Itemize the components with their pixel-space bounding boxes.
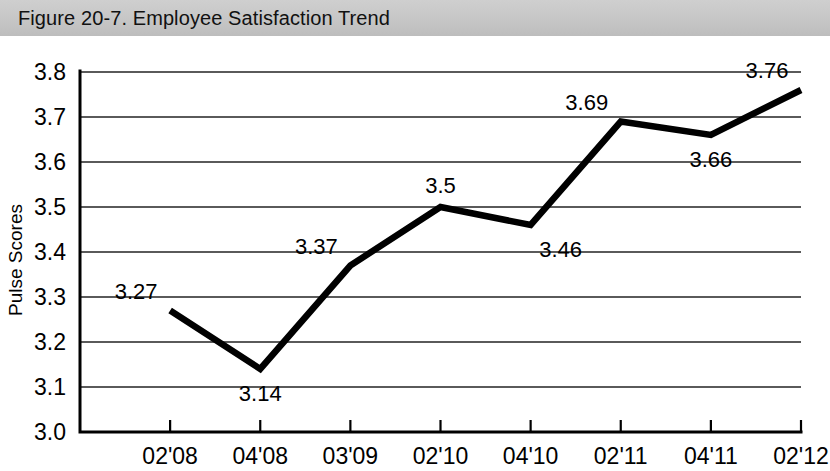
data-point-labels: 3.273.143.373.53.463.693.663.76: [115, 58, 789, 406]
data-point-label: 3.5: [425, 173, 456, 198]
x-axis-tick-label: 04'08: [232, 443, 288, 469]
y-axis-tick-label: 3.4: [34, 239, 66, 265]
x-axis-tick-label: 04'11: [684, 443, 738, 469]
data-point-label: 3.14: [239, 381, 282, 406]
x-axis-tick-label: 04'10: [503, 443, 559, 469]
y-axis-tick-label: 3.7: [34, 104, 66, 130]
y-axis-tick-label: 3.6: [34, 149, 66, 175]
x-axis-tick-label: 03'09: [323, 443, 379, 469]
data-point-label: 3.37: [295, 234, 338, 259]
data-point-label: 3.76: [746, 58, 789, 83]
y-axis-title: Pulse Scores: [5, 204, 26, 316]
y-axis-tick-label: 3.1: [34, 374, 66, 400]
data-series-line: [170, 90, 801, 369]
data-point-label: 3.66: [689, 147, 732, 172]
y-axis-tick-label: 3.0: [34, 419, 66, 445]
grid-lines: [80, 72, 801, 387]
x-axis-tick-label: 02'10: [413, 443, 469, 469]
x-axis-tick-label: 02'08: [142, 443, 198, 469]
x-axis-tick-label: 02'12: [773, 443, 829, 469]
line-chart: 3.03.13.23.33.43.53.63.73.8 02'0804'0803…: [0, 36, 830, 471]
data-point-label: 3.27: [115, 279, 158, 304]
figure-title-bar: Figure 20-7. Employee Satisfaction Trend: [0, 0, 830, 36]
y-axis-tick-label: 3.3: [34, 284, 66, 310]
y-axis-tick-label: 3.5: [34, 194, 66, 220]
page-title: Figure 20-7. Employee Satisfaction Trend: [18, 7, 390, 30]
y-axis-tick-label: 3.8: [34, 59, 66, 85]
chart-container: 3.03.13.23.33.43.53.63.73.8 02'0804'0803…: [0, 36, 830, 471]
data-point-label: 3.69: [565, 90, 608, 115]
x-axis-tick-marks: [170, 420, 801, 432]
data-point-label: 3.46: [539, 237, 582, 262]
y-axis-tick-label: 3.2: [34, 329, 66, 355]
x-axis-tick-label: 02'11: [594, 443, 648, 469]
y-axis-tick-labels: 3.03.13.23.33.43.53.63.73.8: [34, 59, 66, 445]
x-axis-tick-labels: 02'0804'0803'0902'1004'1002'1104'1102'12: [142, 443, 828, 469]
